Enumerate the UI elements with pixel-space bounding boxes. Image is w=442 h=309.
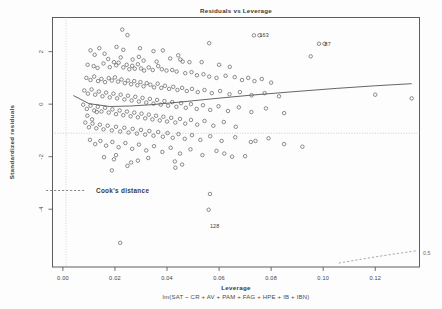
data-point (169, 146, 173, 150)
annotated-data-point (317, 42, 321, 46)
data-point (110, 129, 114, 133)
data-point (301, 145, 305, 149)
data-point (104, 144, 108, 148)
data-point (119, 93, 123, 97)
data-point (141, 96, 145, 100)
y-tick-label: 0 (39, 103, 45, 106)
data-point (88, 138, 92, 142)
data-point (136, 84, 140, 88)
data-point (172, 85, 176, 89)
data-point (156, 130, 160, 134)
data-point (155, 98, 159, 102)
data-point (144, 149, 148, 153)
data-point (142, 59, 146, 63)
data-point (152, 86, 156, 90)
data-point (208, 192, 212, 196)
data-point (210, 91, 214, 95)
data-point (113, 76, 117, 80)
data-point (130, 99, 134, 103)
data-point (95, 110, 99, 114)
data-point (134, 95, 138, 99)
data-point (132, 111, 136, 115)
data-point (160, 86, 164, 90)
data-point (129, 114, 133, 118)
data-point (115, 45, 119, 49)
cooks-distance-legend-label: Cook's distance (96, 187, 149, 194)
data-point (86, 63, 90, 67)
x-tick-label: 0.00 (57, 275, 69, 281)
data-point (98, 46, 102, 50)
data-point (374, 93, 378, 97)
data-point (131, 127, 135, 131)
data-point (148, 129, 152, 133)
data-point (137, 143, 141, 147)
data-point (167, 87, 171, 91)
data-point (101, 95, 105, 99)
data-point (196, 90, 200, 94)
data-point-label: 128 (210, 223, 219, 229)
data-point (230, 155, 234, 159)
data-point (108, 96, 112, 100)
data-point (128, 67, 132, 71)
data-point (220, 139, 224, 143)
data-point (122, 66, 126, 70)
data-point (152, 134, 156, 138)
data-point (218, 89, 222, 93)
data-point (165, 69, 169, 73)
data-point (190, 87, 194, 91)
x-axis-ticks: 0.000.020.040.060.080.100.12 (57, 267, 381, 281)
data-point (93, 142, 97, 146)
data-point (170, 68, 174, 72)
data-point (140, 112, 144, 116)
data-point (112, 92, 116, 96)
data-point (90, 118, 94, 122)
data-point (103, 80, 107, 84)
y-tick-label: -4 (39, 207, 45, 212)
data-point (131, 58, 135, 62)
x-tick-label: 0.02 (109, 275, 121, 281)
data-point (190, 133, 194, 137)
data-point (124, 141, 128, 145)
data-point (117, 145, 121, 149)
data-point (217, 63, 221, 67)
data-point (228, 92, 232, 96)
data-point (100, 77, 104, 81)
data-point (208, 108, 212, 112)
data-point (81, 103, 85, 107)
data-point (163, 84, 167, 88)
data-point (119, 56, 123, 60)
data-point (234, 125, 238, 128)
data-point (243, 154, 247, 158)
data-point (282, 111, 286, 115)
data-point (135, 132, 139, 136)
data-point (189, 148, 193, 152)
data-point (92, 75, 96, 79)
data-point (99, 139, 103, 143)
data-point (175, 105, 179, 109)
data-point (143, 133, 147, 137)
data-point (86, 92, 90, 96)
plot-frame (53, 18, 420, 268)
data-point (175, 70, 179, 74)
x-tick-label: 0.04 (161, 275, 173, 281)
data-point (136, 62, 140, 66)
data-point (85, 107, 89, 111)
data-point (161, 49, 165, 53)
data-point (309, 55, 313, 59)
y-axis-ticks: 20-2-4 (39, 50, 53, 212)
data-point (103, 52, 107, 56)
data-point (117, 61, 121, 65)
data-point (223, 152, 227, 156)
data-point (188, 60, 192, 64)
data-point-label: 87 (324, 41, 330, 47)
data-point (177, 132, 181, 136)
data-point (246, 76, 250, 80)
x-tick-label: 0.12 (369, 275, 381, 281)
data-point (133, 67, 137, 71)
data-point (154, 114, 158, 118)
data-point (129, 82, 133, 86)
data-point (217, 105, 221, 109)
data-point (96, 105, 100, 109)
data-point (125, 110, 129, 114)
data-point (121, 28, 125, 32)
